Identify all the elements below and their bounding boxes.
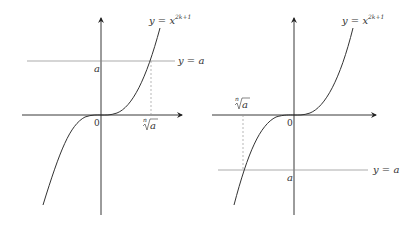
y-tick-label-a: a [287,172,293,183]
right-panel: y = x2k+1 y = a a 0 n a [212,13,399,215]
curve-label: y = x2k+1 [148,13,191,26]
x-tick-nth-root-a: n a [143,116,158,131]
odd-power-function-diagram: y = x2k+1 y = a a 0 n a y = x2k+1 y = a … [0,0,412,232]
svg-text:n: n [143,116,147,123]
curve-odd-power [234,28,353,205]
origin-label: 0 [287,118,293,128]
svg-text:a: a [242,99,248,110]
origin-label: 0 [94,118,100,128]
curve-label: y = x2k+1 [341,13,384,26]
hline-label: y = a [372,164,399,175]
svg-text:n: n [235,95,239,102]
y-tick-label-a: a [94,63,100,74]
svg-text:a: a [150,120,156,131]
x-tick-nth-root-a: n a [235,95,250,110]
left-panel: y = x2k+1 y = a a 0 n a [22,13,204,215]
hline-label: y = a [177,55,204,66]
